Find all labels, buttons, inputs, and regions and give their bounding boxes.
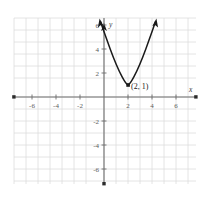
y-tick-label-neg6: -6 [93,166,99,174]
coordinate-plane-svg: -6 -4 -2 2 4 6 6 4 2 -2 -4 -6 y x (2, 1) [0,0,209,197]
x-tick-label-neg2: -2 [77,102,83,110]
x-tick-label-4: 4 [150,102,154,110]
x-axis-left-cap [12,95,15,98]
y-axis-label: y [108,20,113,29]
axis-lines [14,18,196,184]
y-tick-label-2: 2 [96,70,100,78]
x-tick-label-2: 2 [126,102,130,110]
x-axis-right-cap [194,95,197,98]
y-tick-label-neg4: -4 [93,142,99,150]
x-tick-label-neg6: -6 [29,102,35,110]
x-axis-label: x [188,85,193,94]
grid-lines [14,18,196,184]
x-tick-label-6: 6 [174,102,178,110]
y-tick-label-4: 4 [96,46,100,54]
graph-figure: -6 -4 -2 2 4 6 6 4 2 -2 -4 -6 y x (2, 1) [0,0,209,197]
vertex-point-label: (2, 1) [131,82,149,91]
x-tick-label-neg4: -4 [53,102,59,110]
y-tick-label-neg2: -2 [93,118,99,126]
vertex-point-marker [126,83,130,87]
y-axis-bottom-cap [102,182,105,185]
